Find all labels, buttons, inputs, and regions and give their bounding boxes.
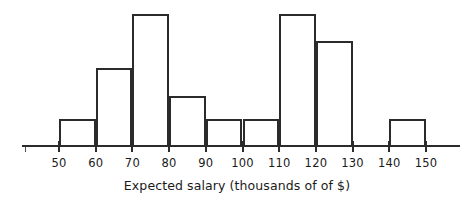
x-axis-tick-label-100: 100 xyxy=(223,157,263,169)
x-axis-tick-100 xyxy=(242,141,244,152)
x-axis-tick-120 xyxy=(315,141,317,152)
x-axis-tick-60 xyxy=(95,141,97,152)
x-axis-tick-label-70: 70 xyxy=(112,157,152,169)
x-axis-tick-label-130: 130 xyxy=(333,157,373,169)
x-axis-tick-label-90: 90 xyxy=(186,157,226,169)
histogram-bar-140-150 xyxy=(389,119,426,147)
x-axis-tick-label-60: 60 xyxy=(76,157,116,169)
x-axis-tick-label-140: 140 xyxy=(369,157,409,169)
histogram-bar-90-100 xyxy=(206,119,243,147)
x-axis-tick-80 xyxy=(168,141,170,152)
x-axis-tick-label-80: 80 xyxy=(149,157,189,169)
histogram-bar-100-110 xyxy=(243,119,280,147)
plot-area: 5060708090100110120130140150 xyxy=(0,0,474,204)
x-axis-tick-150 xyxy=(425,141,427,152)
histogram-bar-120-130 xyxy=(316,41,353,147)
x-axis-minor-tick xyxy=(25,147,26,152)
histogram-bar-110-120 xyxy=(279,14,316,147)
histogram-bar-60-70 xyxy=(96,68,133,147)
x-axis-tick-140 xyxy=(388,141,390,152)
histogram-figure: 5060708090100110120130140150 Expected sa… xyxy=(0,0,474,204)
histogram-bar-80-90 xyxy=(169,96,206,147)
x-axis-tick-90 xyxy=(205,141,207,152)
histogram-bar-50-60 xyxy=(59,119,96,147)
histogram-bar-70-80 xyxy=(132,14,169,147)
x-axis-tick-label-150: 150 xyxy=(406,157,446,169)
x-axis-tick-130 xyxy=(352,141,354,152)
x-axis-title: Expected salary (thousands of of $) xyxy=(0,178,474,193)
x-axis-tick-50 xyxy=(58,141,60,152)
x-axis-tick-label-50: 50 xyxy=(39,157,79,169)
x-axis-tick-110 xyxy=(278,141,280,152)
x-axis-tick-70 xyxy=(131,141,133,152)
x-axis-tick-label-120: 120 xyxy=(296,157,336,169)
x-axis-tick-label-110: 110 xyxy=(259,157,299,169)
